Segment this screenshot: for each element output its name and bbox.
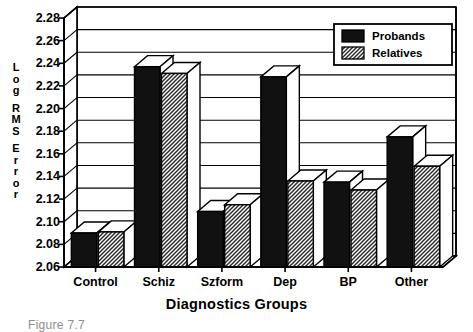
bar-front-face <box>71 233 97 267</box>
y-tick-label: 2.28 <box>16 11 60 25</box>
bar-front-face <box>135 67 161 267</box>
bar-front-face <box>324 182 350 267</box>
bar-front-face <box>162 73 188 267</box>
y-tick-label: 2.16 <box>16 147 60 161</box>
x-category-label-bp: BP <box>340 275 357 289</box>
bar-dep-relatives <box>288 170 327 267</box>
x-axis-title: Diagnostics Groups <box>0 296 473 312</box>
x-category-label-control: Control <box>73 275 117 289</box>
legend: ProbandsRelatives <box>334 24 452 65</box>
y-tick-label: 2.10 <box>16 215 60 229</box>
bar-front-face <box>414 166 440 267</box>
bar-front-face <box>351 190 377 267</box>
y-axis-ticks: 2.282.262.242.222.202.182.162.142.122.10… <box>14 0 60 324</box>
legend-label-probands: Probands <box>372 30 425 42</box>
y-tick-label: 2.14 <box>16 169 60 183</box>
x-category-label-szform: Szform <box>201 275 243 289</box>
bar-other-relatives <box>414 155 453 267</box>
bar-front-face <box>98 232 124 267</box>
x-category-label-other: Other <box>395 275 428 289</box>
y-tick-label: 2.22 <box>16 79 60 93</box>
y-tick-label: 2.18 <box>16 124 60 138</box>
bar-front-face <box>288 181 314 267</box>
bar-front-face <box>261 77 287 267</box>
y-tick-label: 2.26 <box>16 34 60 48</box>
x-category-label-dep: Dep <box>273 275 297 289</box>
legend-swatch-relatives <box>342 47 364 59</box>
bar-front-face <box>387 137 413 267</box>
bar-control-relatives <box>98 221 136 267</box>
y-tick-label: 2.12 <box>16 192 60 206</box>
bar-front-face <box>225 205 251 267</box>
plot-left-wall <box>64 7 77 267</box>
figure-caption: Figure 7.7 <box>28 318 85 332</box>
bar-front-face <box>198 212 224 267</box>
y-tick-label: 2.06 <box>16 260 60 274</box>
y-tick-label: 2.24 <box>16 56 60 70</box>
x-category-label-schiz: Schiz <box>142 275 175 289</box>
bar-szform-relatives <box>225 194 263 267</box>
bar-side-face <box>440 155 453 267</box>
bar-bp-relatives <box>351 179 390 267</box>
y-tick-label: 2.08 <box>16 237 60 251</box>
legend-swatch-probands <box>342 30 364 42</box>
legend-label-relatives: Relatives <box>372 47 423 59</box>
bar-schiz-relatives <box>162 62 201 267</box>
y-tick-label: 2.20 <box>16 102 60 116</box>
